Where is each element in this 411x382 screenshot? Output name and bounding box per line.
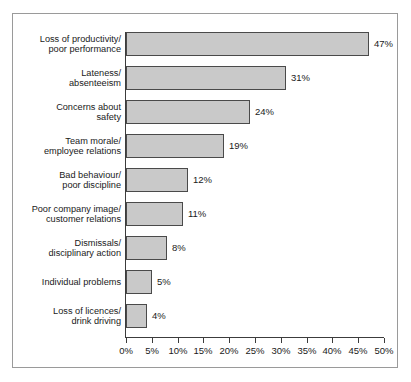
bar-value-label: 5% — [157, 277, 171, 287]
x-axis-tick — [203, 338, 204, 343]
x-axis-tick — [178, 338, 179, 343]
category-label: Team morale/ employee relations — [17, 136, 121, 157]
bar[interactable] — [126, 202, 183, 226]
category-label: Loss of productivity/ poor performance — [17, 34, 121, 55]
bar-row: 12% — [126, 168, 384, 192]
x-axis-tick — [358, 338, 359, 343]
plot-area: 47%31%24%19%12%11%8%5%4%0%5%10%15%20%25%… — [126, 32, 384, 337]
bar[interactable] — [126, 134, 224, 158]
category-label: Dismissals/ disciplinary action — [17, 238, 121, 259]
bar[interactable] — [126, 32, 369, 56]
x-axis-tick-label: 10% — [168, 345, 187, 356]
x-axis-tick — [255, 338, 256, 343]
x-axis-tick-label: 50% — [374, 345, 393, 356]
x-axis-tick — [307, 338, 308, 343]
x-axis-tick-label: 0% — [119, 345, 133, 356]
bar-value-label: 47% — [374, 39, 393, 49]
bar-row: 11% — [126, 202, 384, 226]
x-axis-tick — [126, 338, 127, 343]
x-axis-tick — [229, 338, 230, 343]
category-label: Lateness/ absenteeism — [17, 68, 121, 89]
category-label-axis: Loss of productivity/ poor performanceLa… — [13, 32, 121, 337]
x-axis-tick-label: 15% — [193, 345, 212, 356]
chart-frame: Loss of productivity/ poor performanceLa… — [12, 13, 398, 368]
bar[interactable] — [126, 168, 188, 192]
bar-value-label: 19% — [229, 141, 248, 151]
x-axis-tick-label: 40% — [322, 345, 341, 356]
x-axis-tick-label: 35% — [297, 345, 316, 356]
bar-value-label: 4% — [152, 311, 166, 321]
x-axis-tick-label: 45% — [348, 345, 367, 356]
bar[interactable] — [126, 100, 250, 124]
category-label: Poor company image/ customer relations — [17, 204, 121, 225]
bar-value-label: 12% — [193, 175, 212, 185]
bar-row: 31% — [126, 66, 384, 90]
bar[interactable] — [126, 66, 286, 90]
bar[interactable] — [126, 270, 152, 294]
x-axis-tick-label: 5% — [145, 345, 159, 356]
category-label: Loss of licences/ drink driving — [17, 306, 121, 327]
category-label: Individual problems — [17, 277, 121, 288]
category-label: Bad behaviour/ poor discipline — [17, 170, 121, 191]
x-axis-tick — [384, 338, 385, 343]
x-axis-tick-label: 25% — [245, 345, 264, 356]
bar-row: 24% — [126, 100, 384, 124]
x-axis-tick-label: 20% — [219, 345, 238, 356]
bar-row: 47% — [126, 32, 384, 56]
bar-row: 4% — [126, 304, 384, 328]
x-axis-tick-label: 30% — [271, 345, 290, 356]
bar-value-label: 8% — [172, 243, 186, 253]
category-label: Concerns about safety — [17, 102, 121, 123]
x-axis-tick — [281, 338, 282, 343]
bar-row: 5% — [126, 270, 384, 294]
bar-row: 8% — [126, 236, 384, 260]
bar[interactable] — [126, 236, 167, 260]
bar-row: 19% — [126, 134, 384, 158]
bar-value-label: 24% — [255, 107, 274, 117]
bar[interactable] — [126, 304, 147, 328]
bar-value-label: 31% — [291, 73, 310, 83]
bar-value-label: 11% — [188, 209, 206, 219]
x-axis-tick — [152, 338, 153, 343]
x-axis-tick — [332, 338, 333, 343]
